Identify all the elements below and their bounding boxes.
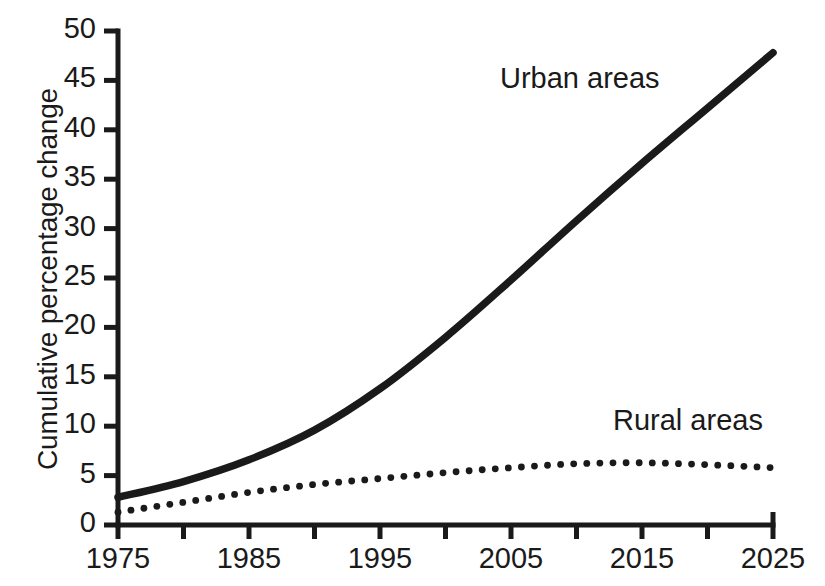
x-tick-label: 2025 xyxy=(713,542,825,575)
y-tick-label: 30 xyxy=(40,210,96,243)
y-tick-label: 15 xyxy=(40,358,96,391)
y-tick-label: 10 xyxy=(40,407,96,440)
x-tick-label: 1995 xyxy=(320,542,440,575)
x-tick-label: 2015 xyxy=(582,542,702,575)
x-tick-label: 1975 xyxy=(58,542,178,575)
chart-container: Cumulative percentage change 05101520253… xyxy=(0,0,825,586)
x-tick-label: 1985 xyxy=(189,542,309,575)
y-tick-label: 25 xyxy=(40,259,96,292)
y-tick-label: 50 xyxy=(40,12,96,45)
series-label-rural-areas: Rural areas xyxy=(613,404,763,437)
x-tick-label: 2005 xyxy=(451,542,571,575)
y-tick-label: 0 xyxy=(40,506,96,539)
y-tick-label: 35 xyxy=(40,160,96,193)
y-tick-label: 5 xyxy=(40,457,96,490)
y-tick-label: 40 xyxy=(40,111,96,144)
chart-plot-area xyxy=(0,0,825,586)
y-tick-label: 20 xyxy=(40,308,96,341)
y-tick-label: 45 xyxy=(40,61,96,94)
series-label-urban-areas: Urban areas xyxy=(500,62,660,95)
